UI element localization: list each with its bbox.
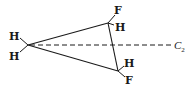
label-c1-h-bottom: H: [9, 50, 19, 63]
bond-c1-c3: [28, 45, 118, 71]
bond-c1-h-bottom: [20, 45, 28, 52]
label-c2-f: F: [114, 4, 122, 17]
bond-c1-c2: [28, 23, 108, 45]
c2-axis-subscript: 2: [181, 46, 185, 54]
label-c2-h: H: [115, 21, 125, 34]
molecule-diagram: H H F H H F C2: [0, 0, 196, 88]
c2-axis-label: C2: [174, 39, 185, 54]
label-c3-h: H: [124, 57, 134, 70]
bond-c3-f: [118, 71, 125, 77]
label-c3-f: F: [125, 74, 133, 87]
bond-c1-h-top: [20, 38, 28, 45]
label-c1-h-top: H: [9, 30, 19, 43]
